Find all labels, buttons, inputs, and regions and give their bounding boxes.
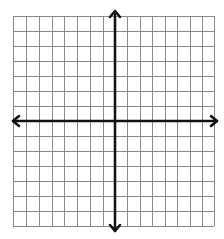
coordinate-plane — [0, 0, 224, 239]
axes — [13, 11, 217, 231]
